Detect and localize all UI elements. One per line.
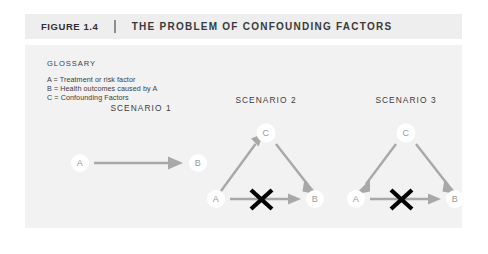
glossary: GLOSSARY A = Treatment or risk factor B … [47,59,157,103]
node-c-label: C [263,128,270,138]
glossary-heading: GLOSSARY [47,59,157,68]
node-b-label: B [312,194,318,204]
glossary-entry-c: C = Confounding Factors [47,93,157,102]
node-a-label: A [77,158,83,168]
scenario-3: SCENARIO 3 [341,95,471,220]
edge-a-to-c [221,134,264,192]
node-a-label: A [353,194,359,204]
scenario-2-diagram: C A B [201,95,331,220]
edge-a-to-b [94,157,183,170]
figure-header: FIGURE 1.4 THE PROBLEM OF CONFOUNDING FA… [25,14,462,39]
scenario-1-diagram: A B [61,103,221,213]
glossary-entry-a: A = Treatment or risk factor [47,75,157,84]
edge-c-to-b [416,144,458,195]
node-b-label: B [452,194,458,204]
scenario-2: SCENARIO 2 [201,95,331,220]
edge-a-to-b-blocked [370,190,441,209]
header-divider [114,20,116,33]
edge-c-to-a [355,144,396,195]
figure-container: FIGURE 1.4 THE PROBLEM OF CONFOUNDING FA… [0,0,488,254]
node-c-label: C [403,128,410,138]
edge-c-to-b [276,144,318,195]
scenario-3-diagram: C A B [341,95,471,220]
figure-panel: GLOSSARY A = Treatment or risk factor B … [25,45,462,228]
figure-number: FIGURE 1.4 [41,21,98,32]
edge-a-to-b-blocked [230,190,301,209]
scenario-1: SCENARIO 1 A B [61,103,221,213]
glossary-entry-b: B = Health outcomes caused by A [47,84,157,93]
node-a-label: A [213,194,219,204]
figure-title: THE PROBLEM OF CONFOUNDING FACTORS [132,21,393,32]
